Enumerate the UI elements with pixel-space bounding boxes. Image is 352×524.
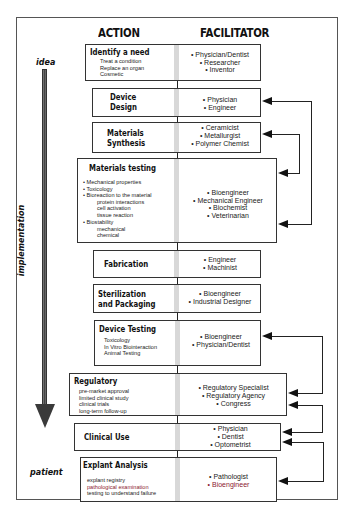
step-explant-analysis: Explant Analysis explant registry pathol… bbox=[80, 457, 277, 502]
progress-arrow-shaft bbox=[42, 69, 47, 407]
step-materials-synthesis: Materials Synthesis • Ceramicist • Metal… bbox=[92, 122, 261, 153]
connector bbox=[177, 80, 178, 88]
step-title: Identify a need bbox=[90, 47, 150, 57]
step-clinical-use: Clinical Use • Physician • Dentist • Opt… bbox=[74, 423, 281, 451]
arrowhead-icon bbox=[262, 97, 272, 105]
progress-arrow-head-icon bbox=[35, 404, 55, 428]
arrowhead-icon bbox=[282, 428, 292, 436]
arrowhead-icon bbox=[282, 438, 292, 446]
step-device-design: Device Design • Physician • Engineer bbox=[92, 88, 261, 117]
step-device-testing: Device Testing Toxicology In Vitro Bioin… bbox=[94, 320, 261, 366]
step-regulatory: Regulatory pre-market approval limited c… bbox=[69, 373, 287, 416]
arrowhead-icon bbox=[288, 401, 298, 409]
connector bbox=[177, 450, 178, 457]
connector bbox=[177, 365, 178, 373]
connector bbox=[177, 415, 178, 423]
arrowhead-icon bbox=[278, 220, 288, 228]
axis-middle-label: implementation bbox=[17, 205, 26, 276]
step-sterilization-packaging: Sterilization and Packaging • Bioenginee… bbox=[93, 284, 261, 313]
axis-end-label: patient bbox=[30, 468, 63, 477]
connector bbox=[177, 312, 178, 320]
arrowhead-icon bbox=[262, 130, 272, 138]
facilitator-header: FACILITATOR bbox=[200, 26, 269, 40]
step-materials-testing: Materials testing • Mechanical propertie… bbox=[77, 158, 277, 243]
connector bbox=[177, 242, 178, 250]
axis-start-label: idea bbox=[36, 58, 55, 67]
arrowhead-icon bbox=[288, 389, 298, 397]
arrowhead-icon bbox=[262, 332, 272, 340]
connector bbox=[177, 277, 178, 284]
step-identify-need: Identify a need Treat a condition Replac… bbox=[85, 44, 261, 81]
action-header: ACTION bbox=[98, 26, 140, 40]
arrowhead-icon bbox=[278, 169, 288, 177]
arrowhead-icon bbox=[278, 477, 288, 485]
step-fabrication: Fabrication • Engineer • Machinist bbox=[93, 250, 261, 278]
